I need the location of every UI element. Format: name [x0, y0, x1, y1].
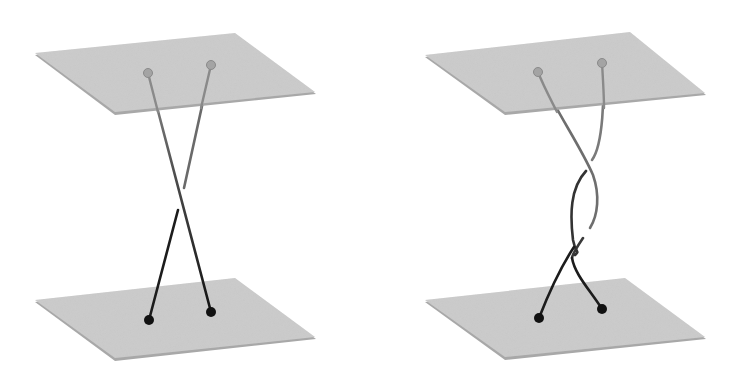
- left-top-plane: [35, 33, 316, 115]
- right-braid-panel: [425, 32, 706, 360]
- braid-diagram: [0, 0, 745, 375]
- right-top-endpoint-1: [534, 68, 543, 77]
- left-top-endpoint-1: [144, 69, 153, 78]
- right-top-endpoint-2: [598, 59, 607, 68]
- left-bottom-endpoint-1: [144, 315, 154, 325]
- left-top-endpoint-2: [207, 61, 216, 70]
- left-braid-panel: [35, 33, 316, 361]
- right-top-plane: [425, 32, 706, 115]
- right-bottom-endpoint-1: [534, 313, 544, 323]
- left-bottom-plane: [35, 278, 316, 361]
- right-bottom-endpoint-2: [597, 304, 607, 314]
- left-bottom-endpoint-2: [206, 307, 216, 317]
- right-bottom-plane: [425, 278, 706, 360]
